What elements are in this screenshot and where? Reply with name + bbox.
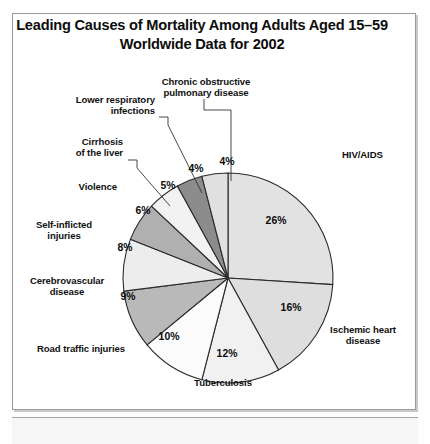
callout-chronic-obstructive-pulmonary-disease: Chronic obstructive pulmonary disease [138,76,274,99]
slice-value-self-inflicted-injuries: 8% [117,242,132,253]
page-bottom-bar [12,417,418,444]
callout-copd-line-1: Chronic obstructive [138,76,274,87]
callout-tuberculosis-line-1: Tuberculosis [163,377,283,388]
pie-slice-hiv-aids [228,173,333,285]
chart-page: Leading Causes of Mortality Among Adults… [0,0,430,444]
callout-ischemic-heart-disease: Ischemic heart disease [313,324,413,347]
slice-value-tuberculosis: 12% [217,348,238,359]
callout-lri-line-1: Lower respiratory [35,94,155,105]
slice-value-hiv-aids: 26% [266,215,287,226]
callout-cerebrovascular-disease: Cerebrovascular disease [13,275,121,298]
callout-self-inflicted-line-1: Self-inflicted [14,219,114,230]
slice-value-chronic-obstructive-pulmonary-disease: 4% [219,156,234,167]
callout-cerebrovascular-line-2: disease [13,286,121,297]
callout-violence-line-1: Violence [23,181,117,192]
callout-copd-line-2: pulmonary disease [138,87,274,98]
leader-line-copd [204,99,231,181]
callout-cirrhosis-of-the-liver: Cirrhosis of the liver [37,136,123,159]
callout-cerebrovascular-line-1: Cerebrovascular [13,275,121,286]
callout-lower-respiratory-infections: Lower respiratory infections [35,94,155,117]
callout-road-traffic-injuries: Road traffic injuries [37,343,167,354]
slice-value-cerebrovascular-disease: 9% [120,291,135,302]
callout-hiv-aids: HIV/AIDS [342,149,422,160]
callout-cirrhosis-line-1: Cirrhosis [37,136,123,147]
callout-self-inflicted-line-2: injuries [14,230,114,241]
callout-ischemic-line-1: Ischemic heart [313,324,413,335]
slice-value-lower-respiratory-infections: 4% [188,163,203,174]
callout-tuberculosis: Tuberculosis [163,377,283,388]
slice-value-violence: 6% [135,205,150,216]
callout-ischemic-line-2: disease [313,335,413,346]
callout-self-inflicted-injuries: Self-inflicted injuries [14,219,114,242]
callout-hiv-line-1: HIV/AIDS [342,149,422,160]
slice-value-cirrhosis-of-the-liver: 5% [160,180,175,191]
chart-stage: Chronic obstructive pulmonary disease Lo… [12,13,416,410]
slice-value-ischemic-heart-disease: 16% [281,302,302,313]
callout-lri-line-2: infections [35,105,155,116]
callout-violence: Violence [23,181,117,192]
callout-road-line-1: Road traffic injuries [37,343,167,354]
callout-cirrhosis-line-2: of the liver [37,147,123,158]
slice-value-road-traffic-injuries: 10% [159,331,180,342]
